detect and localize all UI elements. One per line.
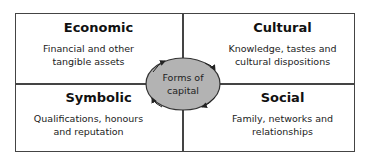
center-label-line1: Forms of [162,72,204,83]
center-ellipse: Forms of capital [0,0,367,164]
center-label-line2: capital [167,85,199,96]
